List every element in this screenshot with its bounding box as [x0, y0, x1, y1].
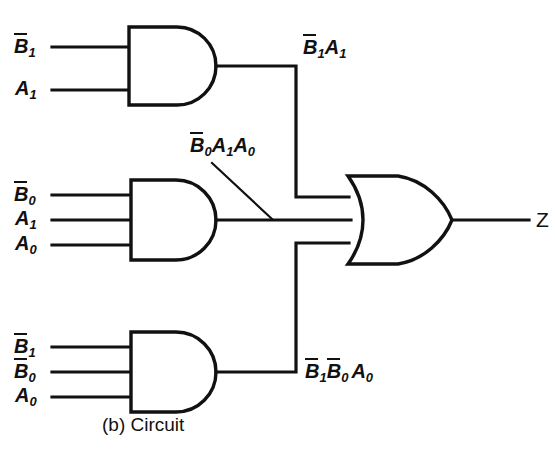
- label-input-b1bar-bot: B1: [14, 335, 36, 356]
- wire-and-bottom-to-or: [216, 243, 349, 372]
- label-product-term-b0bar-a1-a0: B0A1A0: [190, 134, 255, 155]
- label-input-b1bar-top: B1: [14, 35, 36, 56]
- label-input-a1-top: A1: [15, 78, 37, 98]
- label-input-a1-mid: A1: [15, 208, 37, 228]
- label-input-b0bar-mid: B0: [14, 183, 36, 204]
- and-gate-bottom-body: [131, 332, 216, 412]
- label-input-a0-mid: A0: [15, 233, 37, 253]
- or-gate-body: [348, 176, 452, 264]
- label-output-z: Z: [536, 209, 549, 230]
- label-product-term-b1bar-a1: B1A1: [303, 36, 346, 57]
- circuit-figure: B1 A1 B1A1 B0A1A0 B0 A1 A0 B1 B0 A0 B1B0…: [0, 0, 555, 461]
- figure-caption: (b) Circuit: [102, 414, 184, 436]
- circuit-schematic: [0, 0, 555, 461]
- label-input-a0-bot: A0: [15, 385, 37, 405]
- label-input-b0bar-bot: B0: [14, 360, 36, 381]
- and-gate-top-body: [129, 27, 216, 105]
- wire-and-top-to-or: [216, 66, 349, 197]
- and-gate-middle-body: [131, 180, 216, 260]
- label-product-term-b1bar-b0bar-a0: B1B0A0: [305, 360, 373, 381]
- leader-line-middle-label: [212, 163, 272, 219]
